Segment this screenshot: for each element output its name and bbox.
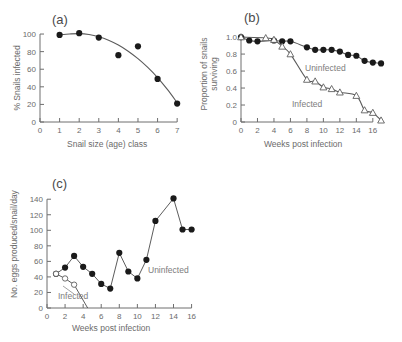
data-point (152, 218, 158, 224)
data-point (134, 275, 140, 281)
x-tick-label: 1 (57, 126, 62, 135)
x-tick-label: 10 (319, 126, 328, 135)
data-point (56, 32, 62, 38)
data-point (337, 48, 343, 54)
y-tick-label: 120 (30, 211, 44, 220)
data-point (174, 100, 180, 106)
x-tick-label: 4 (116, 126, 121, 135)
panel-b: (b) 024681012141600.20.40.60.81.0 Uninfe… (198, 0, 402, 171)
data-point (353, 92, 360, 98)
data-point (71, 282, 76, 287)
y-tick-label: 60 (27, 65, 36, 74)
series-line-uninfected (56, 198, 192, 288)
x-tick-label: 0 (45, 312, 50, 321)
data-point (76, 30, 82, 36)
data-point (329, 47, 335, 53)
x-tick-label: 16 (368, 126, 377, 135)
x-tick-label: 0 (38, 126, 43, 135)
data-point (170, 195, 176, 201)
x-tick-label: 6 (288, 126, 293, 135)
data-point (304, 44, 310, 50)
x-tick-label: 8 (305, 126, 310, 135)
data-point (287, 38, 293, 44)
panel-c-ylabel: No. eggs produced/snail/day (9, 189, 19, 297)
panel-b-tick-labels: 024681012141600.20.40.60.81.0 (226, 33, 378, 135)
data-point (254, 38, 260, 44)
data-point (116, 250, 122, 256)
panel-a-data-points (56, 30, 180, 107)
panel-a: (a) 01234567020406080100 Snail size (age… (0, 0, 201, 171)
panel-c-label: (c) (52, 176, 67, 191)
data-point (320, 84, 327, 90)
x-tick-label: 16 (187, 312, 196, 321)
y-tick-label: 20 (27, 100, 36, 109)
data-point (188, 226, 194, 232)
y-tick-label: 0.2 (226, 101, 238, 110)
x-tick-label: 5 (136, 126, 141, 135)
data-point (80, 264, 86, 270)
data-point (179, 226, 185, 232)
panel-b-ylabel-line2: surviving (209, 57, 219, 91)
x-tick-label: 2 (255, 126, 260, 135)
panel-a-svg: (a) 01234567020406080100 Snail size (age… (0, 0, 201, 171)
y-tick-label: 0.4 (226, 84, 238, 93)
data-point (143, 257, 149, 263)
x-tick-label: 10 (133, 312, 142, 321)
x-tick-label: 3 (97, 126, 102, 135)
x-tick-label: 12 (335, 126, 344, 135)
x-tick-label: 0 (239, 126, 244, 135)
x-tick-label: 7 (175, 126, 180, 135)
x-tick-label: 2 (63, 312, 68, 321)
y-tick-label: 100 (30, 226, 44, 235)
data-point (320, 47, 326, 53)
x-tick-label: 8 (117, 312, 122, 321)
x-tick-label: 2 (77, 126, 82, 135)
x-tick-label: 4 (81, 312, 86, 321)
panel-c-infected-annotation: Infected (58, 291, 89, 301)
x-tick-label: 14 (169, 312, 178, 321)
panel-b-label: (b) (244, 10, 260, 25)
panel-a-label: (a) (52, 12, 68, 27)
panel-b-ylabel-line1: Proportion of snails (199, 38, 209, 111)
data-point (107, 285, 113, 291)
panel-b-xlabel: Weeks post infection (264, 139, 343, 149)
data-point (246, 37, 252, 43)
panel-a-ylabel: % Snails infected (12, 45, 22, 110)
y-tick-label: 0 (233, 118, 238, 127)
y-tick-label: 80 (27, 48, 36, 57)
data-point (89, 271, 95, 277)
y-tick-label: 40 (34, 273, 43, 282)
y-tick-label: 0 (32, 118, 37, 127)
y-tick-label: 0.8 (226, 50, 238, 59)
data-point (71, 253, 77, 259)
panel-a-xlabel: Snail size (age) class (67, 139, 147, 149)
data-point (361, 107, 368, 113)
y-tick-label: 0 (39, 304, 44, 313)
data-point (312, 47, 318, 53)
y-tick-label: 1.0 (226, 33, 238, 42)
panel-b-data-points (238, 34, 385, 123)
data-point (154, 76, 160, 82)
data-point (378, 60, 384, 66)
panel-c-data-points (53, 195, 195, 291)
data-point (135, 43, 141, 49)
panel-b-svg: (b) 024681012141600.20.40.60.81.0 Uninfe… (198, 0, 402, 171)
x-tick-label: 14 (352, 126, 361, 135)
fitted-curve-path (60, 34, 178, 103)
x-tick-label: 12 (151, 312, 160, 321)
panel-c-xlabel: Weeks post infection (72, 323, 151, 333)
data-point (345, 52, 351, 58)
panel-c-svg: (c) 0246810121416020406080100120140 Unin… (0, 166, 212, 342)
panel-b-uninfected-annotation: Uninfected (305, 63, 346, 73)
x-tick-label: 6 (155, 126, 160, 135)
x-tick-label: 4 (272, 126, 277, 135)
y-tick-label: 0.6 (226, 67, 238, 76)
panel-a-tick-labels: 01234567020406080100 (23, 30, 180, 135)
panel-b-infected-annotation: Infected (292, 99, 323, 109)
data-point (125, 268, 131, 274)
y-tick-label: 20 (34, 288, 43, 297)
y-tick-label: 140 (30, 195, 44, 204)
data-point (361, 58, 367, 64)
data-point (115, 52, 121, 58)
panel-a-fitted-curve (60, 34, 178, 103)
